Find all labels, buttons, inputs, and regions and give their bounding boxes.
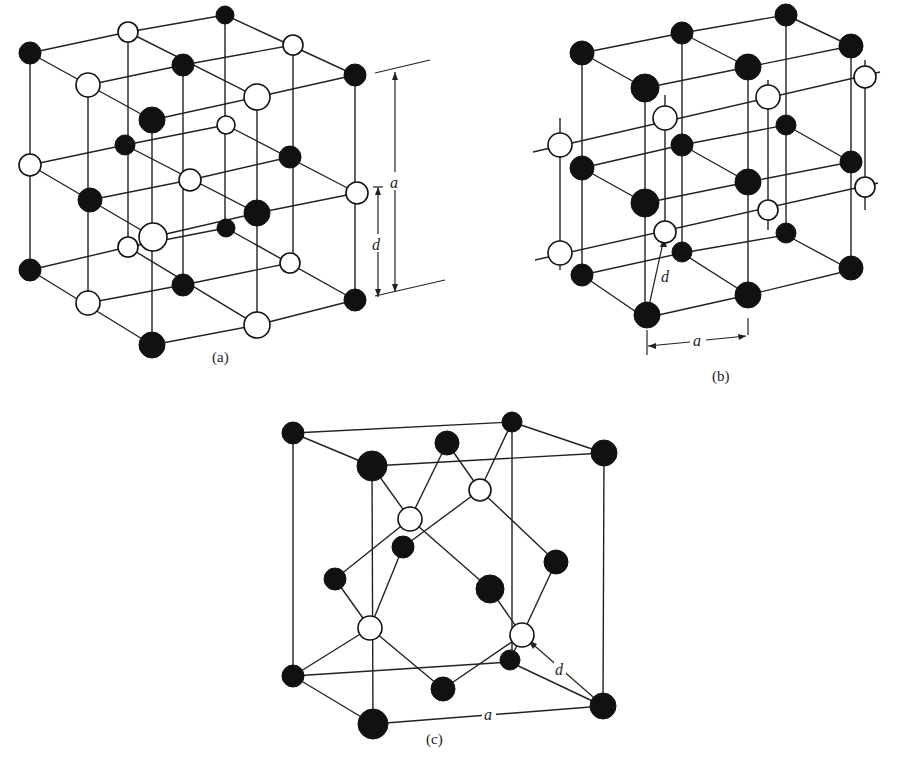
panel-c-label-d: d: [555, 661, 564, 678]
atom-white: [398, 507, 422, 531]
panel-c-caption: (c): [426, 731, 443, 748]
atom-black: [139, 107, 165, 133]
panel-a-label-a: a: [390, 174, 398, 191]
atom-white: [358, 616, 382, 640]
atom-white: [756, 85, 780, 109]
atom-white: [280, 253, 300, 273]
atom-black: [840, 151, 862, 173]
atom-black: [591, 440, 617, 466]
atom-black: [392, 536, 414, 558]
panel-c-label-a: a: [484, 706, 492, 723]
atom-white: [118, 237, 138, 257]
atom-white: [855, 177, 875, 197]
atom-black: [775, 4, 797, 26]
panel-b-label-d: d: [661, 268, 670, 285]
atom-black: [839, 34, 863, 58]
atom-white: [653, 106, 677, 130]
atom-black: [735, 282, 761, 308]
atom-black: [115, 135, 135, 155]
atom-black: [634, 302, 660, 328]
atom-black: [78, 188, 102, 212]
panel-c-zincblende-cell: d a (c): [282, 412, 617, 748]
atom-white: [139, 223, 167, 251]
atom-black: [476, 575, 504, 603]
atom-black: [672, 242, 692, 262]
atom-white: [548, 133, 572, 157]
atom-black: [172, 54, 194, 76]
atom-black: [19, 42, 41, 64]
atom-black: [570, 156, 594, 180]
atom-white: [179, 169, 201, 191]
atom-black: [631, 74, 659, 102]
atom-black: [776, 115, 796, 135]
atom-white: [510, 623, 534, 647]
atom-black: [244, 200, 270, 226]
atom-black: [279, 146, 301, 168]
atom-black: [735, 169, 761, 195]
atom-black: [216, 6, 234, 24]
atom-white: [118, 22, 138, 42]
atom-black: [570, 41, 594, 65]
atom-black: [571, 264, 593, 286]
atom-black: [217, 219, 235, 237]
atom-white: [346, 182, 368, 204]
atom-white: [654, 221, 676, 243]
atom-white: [244, 84, 270, 110]
atom-black: [502, 412, 522, 432]
atom-white: [244, 312, 270, 338]
atom-black: [671, 22, 693, 44]
atom-black: [839, 256, 863, 280]
atom-black: [282, 665, 304, 687]
atom-white: [548, 241, 572, 265]
atom-black: [500, 650, 520, 670]
atom-black: [344, 289, 366, 311]
atom-black: [19, 259, 41, 281]
atom-black: [358, 709, 388, 739]
atom-white: [76, 73, 100, 97]
atom-white: [283, 35, 303, 55]
atom-black: [671, 134, 693, 156]
atom-white: [469, 479, 491, 501]
atom-black: [776, 223, 796, 243]
atom-white: [76, 291, 100, 315]
atom-white: [217, 116, 235, 134]
atom-white: [19, 154, 41, 176]
panel-b-bcc-lattice: d a (b): [533, 4, 880, 385]
panel-b-caption: (b): [712, 368, 730, 385]
atom-black: [172, 274, 194, 296]
atom-black: [344, 64, 366, 86]
atom-white: [758, 200, 778, 220]
atom-black: [590, 693, 616, 719]
panel-a-label-d: d: [372, 236, 381, 253]
panel-a-caption: (a): [212, 349, 229, 366]
panel-a-rocksalt-lattice: a d (a): [19, 6, 445, 366]
crystal-structure-figure: a d (a): [0, 0, 899, 764]
atom-black: [357, 451, 387, 481]
atom-black: [139, 332, 165, 358]
atom-black: [324, 568, 346, 590]
panel-b-label-a: a: [693, 332, 701, 349]
atom-black: [282, 422, 304, 444]
atom-white: [854, 66, 876, 88]
atom-black: [735, 54, 761, 80]
atom-black: [631, 189, 659, 217]
atom-black: [431, 677, 455, 701]
atom-black: [544, 550, 568, 574]
atom-black: [435, 431, 459, 455]
